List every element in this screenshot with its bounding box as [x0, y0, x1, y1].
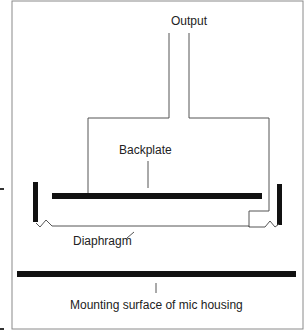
diagram-frame: [12, 1, 303, 329]
left-post: [33, 182, 38, 222]
margin-mark-top: [0, 188, 4, 190]
mic-capsule-diagram: Output Backplate Diaphragm Mounting surf…: [0, 0, 307, 332]
output-wire-left: [88, 33, 169, 194]
margin-mark-bottom: [0, 328, 4, 330]
output-label: Output: [171, 14, 208, 28]
backplate-bar: [52, 193, 262, 199]
right-post: [277, 184, 282, 225]
backplate-label: Backplate: [119, 143, 172, 157]
mounting-surface-bar: [17, 271, 296, 277]
diaphragm-line: [36, 220, 279, 227]
diaphragm-label: Diaphragm: [73, 234, 132, 248]
mounting-label: Mounting surface of mic housing: [70, 298, 243, 312]
